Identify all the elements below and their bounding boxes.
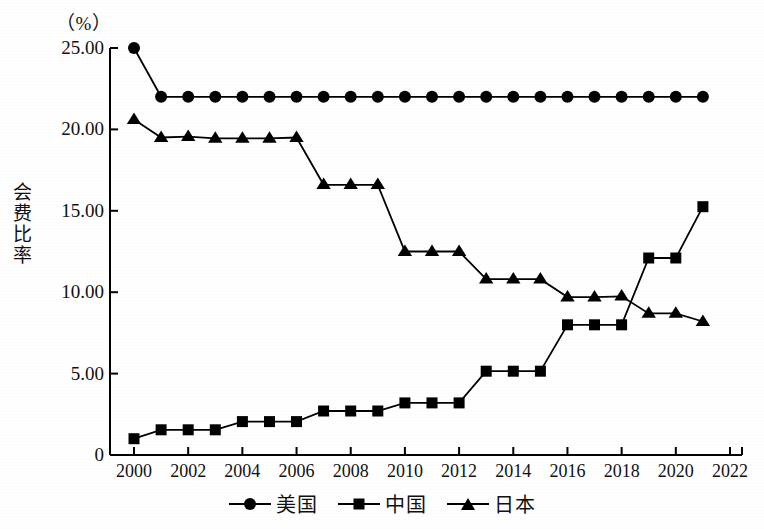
- data-point-marker: [587, 290, 601, 302]
- data-point-marker: [345, 406, 356, 417]
- data-point-marker: [480, 91, 492, 103]
- data-point-marker: [344, 178, 358, 190]
- data-point-marker: [481, 366, 492, 377]
- data-point-marker: [533, 272, 547, 284]
- data-point-marker: [697, 201, 708, 212]
- data-point-marker: [345, 91, 357, 103]
- data-point-marker: [181, 130, 195, 142]
- data-point-marker: [291, 416, 302, 427]
- data-point-marker: [399, 397, 410, 408]
- data-point-marker: [507, 91, 519, 103]
- legend-item[interactable]: 中国: [338, 489, 427, 518]
- chart-legend: 美国中国日本: [0, 489, 764, 518]
- data-point-marker: [236, 91, 248, 103]
- data-point-marker: [453, 91, 465, 103]
- data-point-marker: [209, 91, 221, 103]
- data-point-marker: [670, 91, 682, 103]
- data-point-marker: [589, 91, 601, 103]
- data-point-marker: [616, 319, 627, 330]
- data-point-marker: [262, 131, 276, 143]
- legend-item[interactable]: 美国: [229, 489, 318, 518]
- data-point-marker: [155, 91, 167, 103]
- data-point-marker: [426, 91, 438, 103]
- data-point-marker: [316, 178, 330, 190]
- data-point-marker: [560, 290, 574, 302]
- data-point-marker: [616, 91, 628, 103]
- data-point-marker: [208, 131, 222, 143]
- data-point-marker: [506, 272, 520, 284]
- data-point-marker: [534, 91, 546, 103]
- triangle-marker-icon: [447, 495, 489, 513]
- data-point-marker: [589, 319, 600, 330]
- data-point-marker: [183, 424, 194, 435]
- data-point-marker: [129, 433, 140, 444]
- membership-fee-ratio-chart: （%） 会费比率 05.0010.0015.0020.0025.00 20002…: [0, 0, 764, 529]
- data-point-marker: [562, 319, 573, 330]
- data-point-marker: [399, 91, 411, 103]
- data-point-marker: [562, 91, 574, 103]
- data-point-marker: [372, 91, 384, 103]
- data-point-marker: [508, 366, 519, 377]
- circle-marker-icon: [229, 495, 271, 513]
- data-point-marker: [154, 130, 168, 142]
- data-point-marker: [128, 42, 140, 54]
- data-point-marker: [643, 91, 655, 103]
- data-point-marker: [318, 91, 330, 103]
- legend-item[interactable]: 日本: [447, 489, 536, 518]
- data-point-marker: [614, 289, 628, 301]
- data-point-marker: [291, 91, 303, 103]
- data-point-marker: [670, 253, 681, 264]
- data-point-marker: [264, 91, 276, 103]
- data-point-marker: [643, 253, 654, 264]
- data-point-marker: [237, 416, 248, 427]
- data-point-marker: [372, 406, 383, 417]
- data-point-marker: [156, 424, 167, 435]
- data-point-marker: [289, 130, 303, 142]
- data-point-marker: [264, 416, 275, 427]
- data-point-marker: [535, 366, 546, 377]
- data-point-marker: [182, 91, 194, 103]
- series-triangle: [127, 113, 710, 326]
- data-point-marker: [642, 306, 656, 318]
- data-point-marker: [425, 244, 439, 256]
- data-point-marker: [697, 91, 709, 103]
- data-point-marker: [235, 131, 249, 143]
- square-marker-icon: [338, 495, 380, 513]
- data-point-marker: [452, 244, 466, 256]
- data-point-marker: [454, 397, 465, 408]
- data-point-marker: [318, 406, 329, 417]
- data-point-marker: [427, 397, 438, 408]
- legend-label: 中国: [385, 489, 427, 518]
- data-point-marker: [669, 306, 683, 318]
- data-point-marker: [371, 178, 385, 190]
- legend-label: 美国: [276, 489, 318, 518]
- data-point-marker: [127, 113, 141, 125]
- data-point-marker: [398, 244, 412, 256]
- plot-area: [0, 0, 764, 529]
- series-circle: [128, 42, 709, 103]
- data-point-marker: [210, 424, 221, 435]
- legend-label: 日本: [494, 489, 536, 518]
- series-square: [129, 201, 709, 444]
